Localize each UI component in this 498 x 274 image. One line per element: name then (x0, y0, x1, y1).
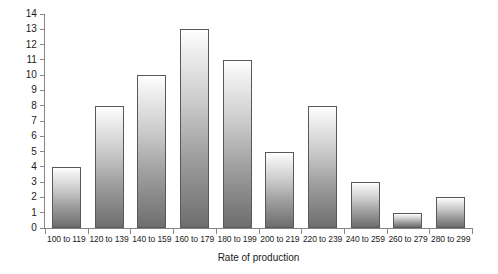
y-axis-tick-mark (40, 136, 44, 137)
y-axis-tick-mark (40, 212, 44, 213)
x-axis-tick-label: 200 to 219 (259, 235, 302, 244)
y-axis-tick-label: 12 (26, 40, 37, 50)
y-axis-tick-mark (40, 105, 44, 106)
x-axis-tick-mark (472, 229, 473, 234)
x-axis-title: Rate of production (45, 252, 472, 263)
bar-chart-figure: 14131211109876543210 100 to 119120 to 13… (0, 0, 498, 274)
y-axis-tick-label: 8 (31, 101, 37, 111)
y-axis-tick: 13 (26, 24, 45, 34)
y-axis-tick-mark (40, 75, 44, 76)
y-axis-tick-label: 4 (31, 162, 37, 172)
x-axis-tick-label: 280 to 299 (429, 235, 472, 244)
y-axis-tick-mark (40, 151, 44, 152)
bar (308, 106, 337, 228)
x-axis-tick-label: 100 to 119 (45, 235, 88, 244)
x-axis-tick-label: 120 to 139 (88, 235, 131, 244)
bar-slot (88, 14, 131, 228)
y-axis-tick: 5 (31, 147, 45, 157)
y-axis-tick-label: 3 (31, 177, 37, 187)
x-axis-tick-mark (45, 229, 46, 234)
y-axis-tick: 6 (31, 131, 45, 141)
bar (52, 167, 81, 228)
y-axis-tick-label: 0 (31, 223, 37, 233)
bar (265, 152, 294, 228)
y-axis-tick-mark (40, 29, 44, 30)
y-axis-tick-label: 13 (26, 24, 37, 34)
y-axis-tick: 14 (26, 9, 45, 19)
y-axis-tick-label: 6 (31, 131, 37, 141)
y-axis-tick-mark (40, 197, 44, 198)
bar-slot (429, 14, 472, 228)
y-axis-tick-label: 7 (31, 116, 37, 126)
y-axis-tick-label: 10 (26, 70, 37, 80)
bar (351, 182, 380, 228)
y-axis-tick-label: 9 (31, 85, 37, 95)
x-axis-tick-mark (173, 229, 174, 234)
y-axis-tick-label: 5 (31, 147, 37, 157)
y-axis-tick: 4 (31, 162, 45, 172)
y-axis-tick-label: 2 (31, 192, 37, 202)
y-axis-tick: 12 (26, 40, 45, 50)
bar (393, 213, 422, 228)
plot-area: 14131211109876543210 (45, 14, 472, 228)
bar (436, 197, 465, 228)
bar-slot (344, 14, 387, 228)
x-axis-tick-label: 220 to 239 (301, 235, 344, 244)
y-axis-tick-mark (40, 166, 44, 167)
y-axis-tick: 0 (31, 223, 45, 233)
y-axis-tick-label: 14 (26, 9, 37, 19)
y-axis-tick: 9 (31, 85, 45, 95)
x-axis-tick-mark (216, 229, 217, 234)
x-axis-tick-mark (344, 229, 345, 234)
x-axis-tick-label: 140 to 159 (130, 235, 173, 244)
y-axis-tick: 7 (31, 116, 45, 126)
y-axis-tick-mark (40, 182, 44, 183)
y-axis-tick-mark (40, 59, 44, 60)
bar-slot (130, 14, 173, 228)
bar (95, 106, 124, 228)
x-axis-tick-label: 260 to 279 (387, 235, 430, 244)
y-axis-tick: 2 (31, 192, 45, 202)
y-axis-tick-mark (40, 90, 44, 91)
y-axis-tick: 11 (26, 55, 45, 65)
y-axis-tick-mark (40, 121, 44, 122)
bar-slot (45, 14, 88, 228)
bar-slot (173, 14, 216, 228)
y-axis-tick-label: 1 (31, 208, 37, 218)
bar (223, 60, 252, 228)
bar-slot (259, 14, 302, 228)
y-axis-tick-mark (40, 44, 44, 45)
bar (180, 29, 209, 228)
y-axis-tick-mark (40, 14, 44, 15)
y-axis-tick: 8 (31, 101, 45, 111)
bar-slot (216, 14, 259, 228)
bar-series (45, 14, 472, 228)
bar-slot (301, 14, 344, 228)
y-axis-tick-mark (40, 228, 44, 229)
x-axis-tick-label: 180 to 199 (216, 235, 259, 244)
x-axis-tick-label: 240 to 259 (344, 235, 387, 244)
bar-slot (387, 14, 430, 228)
y-axis-tick: 1 (31, 208, 45, 218)
x-axis-tick-labels: 100 to 119120 to 139140 to 159160 to 179… (45, 235, 472, 244)
y-axis-tick-label: 11 (26, 55, 37, 65)
y-axis-tick: 10 (26, 70, 45, 80)
x-axis-tick-label: 160 to 179 (173, 235, 216, 244)
y-axis-tick: 3 (31, 177, 45, 187)
bar (137, 75, 166, 228)
